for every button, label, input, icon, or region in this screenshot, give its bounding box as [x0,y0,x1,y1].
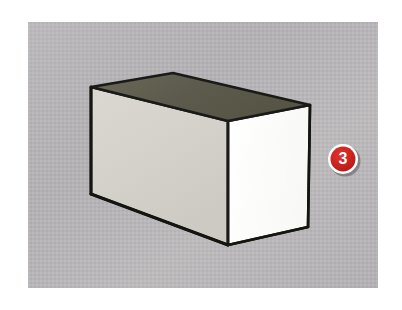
box-right-face [228,105,310,245]
illustration-canvas [0,0,402,310]
figure-root: 3 [0,0,402,310]
callout-badge-fill[interactable] [331,147,356,172]
